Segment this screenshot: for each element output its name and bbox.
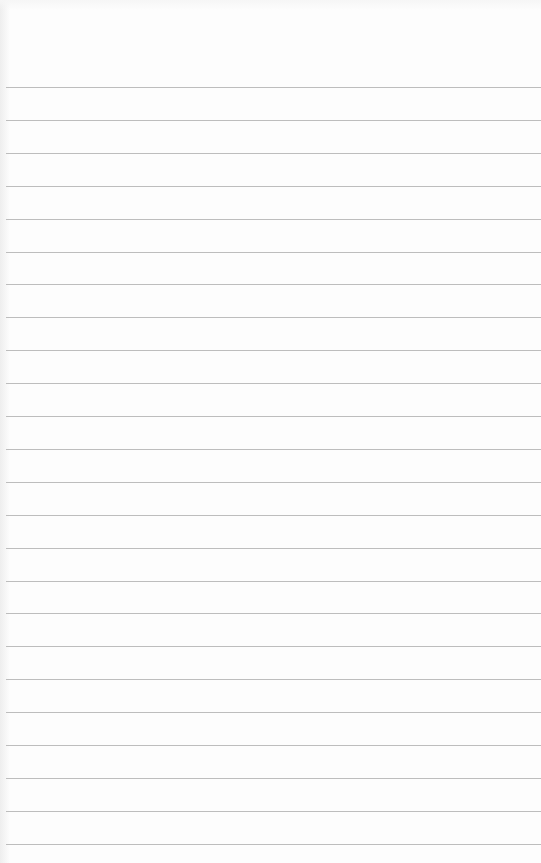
ruled-line: [6, 844, 541, 845]
page-top-edge: [0, 0, 541, 10]
ruled-line: [6, 745, 541, 746]
ruled-line: [6, 449, 541, 450]
ruled-line: [6, 186, 541, 187]
ruled-line: [6, 284, 541, 285]
ruled-line: [6, 646, 541, 647]
ruled-line: [6, 613, 541, 614]
ruled-line: [6, 581, 541, 582]
notepad-page: [0, 0, 541, 863]
ruled-line: [6, 120, 541, 121]
ruled-line: [6, 548, 541, 549]
ruled-line: [6, 482, 541, 483]
ruled-line: [6, 350, 541, 351]
ruled-line: [6, 416, 541, 417]
page-edge-shadow: [0, 0, 10, 863]
ruled-line: [6, 87, 541, 88]
ruled-line: [6, 712, 541, 713]
ruled-line: [6, 778, 541, 779]
ruled-line: [6, 252, 541, 253]
ruled-line: [6, 679, 541, 680]
ruled-line: [6, 515, 541, 516]
ruled-line: [6, 219, 541, 220]
ruled-line: [6, 383, 541, 384]
ruled-line: [6, 153, 541, 154]
ruled-line: [6, 317, 541, 318]
ruled-line: [6, 811, 541, 812]
